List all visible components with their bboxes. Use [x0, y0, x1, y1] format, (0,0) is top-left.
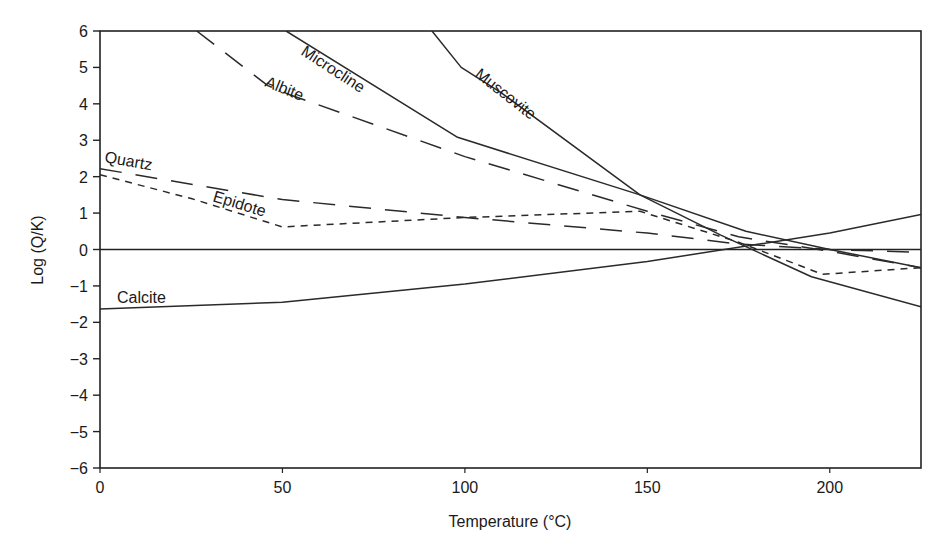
- y-tick-label: 4: [79, 96, 88, 113]
- y-axis-title: Log (Q/K): [29, 215, 46, 284]
- y-tick-label: 0: [79, 242, 88, 259]
- series-label-albite: Albite: [263, 73, 307, 104]
- series-label-calcite: Calcite: [117, 289, 166, 306]
- series-label-quartz: Quartz: [103, 148, 153, 173]
- y-tick-label: −3: [70, 351, 88, 368]
- x-axis: 050100150200: [96, 468, 844, 496]
- chart-container: 6543210−1−2−3−4−5−6 050100150200 Microcl…: [0, 0, 944, 549]
- series-line-microcline: [286, 31, 921, 268]
- y-tick-label: 2: [79, 169, 88, 186]
- series-line-calcite: [100, 215, 921, 309]
- series-labels: MicroclineMuscoviteAlbiteQuartzEpidoteCa…: [103, 42, 539, 306]
- series-label-epidote: Epidote: [211, 188, 268, 220]
- x-tick-label: 150: [634, 479, 661, 496]
- y-tick-label: −2: [70, 314, 88, 331]
- line-chart: 6543210−1−2−3−4−5−6 050100150200 Microcl…: [0, 0, 944, 549]
- y-tick-label: 3: [79, 132, 88, 149]
- plot-area: [100, 31, 921, 309]
- series-label-microcline: Microcline: [298, 42, 368, 96]
- y-tick-label: 6: [79, 23, 88, 40]
- series-line-albite: [197, 31, 921, 268]
- series-label-muscovite: Muscovite: [472, 65, 539, 123]
- x-tick-label: 100: [452, 479, 479, 496]
- y-tick-label: 1: [79, 205, 88, 222]
- series-line-quartz: [100, 169, 921, 253]
- x-tick-label: 50: [274, 479, 292, 496]
- y-tick-label: −1: [70, 278, 88, 295]
- x-tick-label: 200: [816, 479, 843, 496]
- y-axis: 6543210−1−2−3−4−5−6: [70, 23, 100, 477]
- x-tick-label: 0: [96, 479, 105, 496]
- y-tick-label: −6: [70, 460, 88, 477]
- y-tick-label: −4: [70, 387, 88, 404]
- y-tick-label: 5: [79, 59, 88, 76]
- x-axis-title: Temperature (°C): [449, 513, 572, 530]
- y-tick-label: −5: [70, 424, 88, 441]
